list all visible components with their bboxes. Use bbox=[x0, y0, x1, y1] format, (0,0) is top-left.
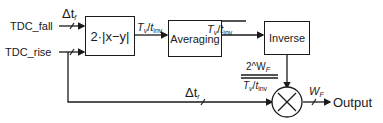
block-abs-diff: 2·|x−y| bbox=[85, 16, 135, 56]
output-label: Output bbox=[333, 96, 372, 109]
input-tdc-fall: TDC_fall bbox=[10, 21, 53, 32]
label-delta-tf: Δtf bbox=[62, 7, 76, 21]
fraction-numerator: 2^WF bbox=[246, 62, 270, 73]
diagram-wires bbox=[0, 0, 383, 123]
input-tdc-rise: TDC_rise bbox=[5, 47, 51, 58]
label-tv-tinv: Tv/tinv bbox=[137, 22, 162, 34]
fraction-denominator: Tv/tinv bbox=[243, 81, 267, 92]
label-tv-tinv-avg: Tv/tinv bbox=[207, 24, 232, 36]
block-inverse: Inverse bbox=[264, 21, 310, 55]
label-wf: WF bbox=[309, 86, 324, 98]
label-delta-tr: Δtr bbox=[185, 86, 200, 100]
